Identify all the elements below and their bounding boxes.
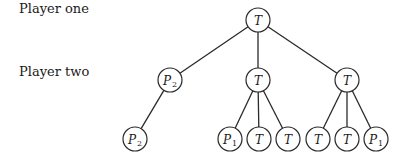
node-subscript: 1 <box>378 139 383 148</box>
tree-edge <box>141 90 164 128</box>
tree-node: T <box>335 68 359 92</box>
tree-edge <box>268 27 337 74</box>
node-label: T <box>343 133 352 147</box>
node-label: T <box>255 133 264 147</box>
tree-edge <box>235 91 253 128</box>
tree-edge <box>352 91 370 128</box>
tree-edge <box>263 91 282 129</box>
tree-node: T <box>276 127 300 151</box>
node-label: T <box>254 74 263 88</box>
tree-edge <box>258 92 259 127</box>
tree-node: P1 <box>364 127 388 151</box>
tree-node: T <box>246 8 270 32</box>
tree-node: T <box>247 127 271 151</box>
node-subscript: 2 <box>172 80 177 89</box>
node-subscript: 2 <box>137 139 142 148</box>
tree-node: T <box>335 127 359 151</box>
tree-edge <box>180 27 248 73</box>
node-label: T <box>254 14 263 28</box>
node-label: P <box>162 74 172 88</box>
tree-node: P1 <box>218 127 242 151</box>
node-subscript: 1 <box>232 139 237 148</box>
node-label: T <box>284 133 293 147</box>
node-label: P <box>222 133 232 147</box>
tree-node: P2 <box>123 127 147 151</box>
node-label: P <box>127 133 137 147</box>
tree-edge <box>323 91 341 128</box>
tree-node: P2 <box>158 68 182 92</box>
node-label: T <box>314 133 323 147</box>
tree-node: T <box>306 127 330 151</box>
tree-nodes: TP2TTP2P1TTTTP1 <box>123 8 388 151</box>
node-label: T <box>343 74 352 88</box>
tree-node: T <box>246 68 270 92</box>
game-tree-diagram: TP2TTP2P1TTTTP1 <box>0 0 407 165</box>
node-label: P <box>368 133 378 147</box>
